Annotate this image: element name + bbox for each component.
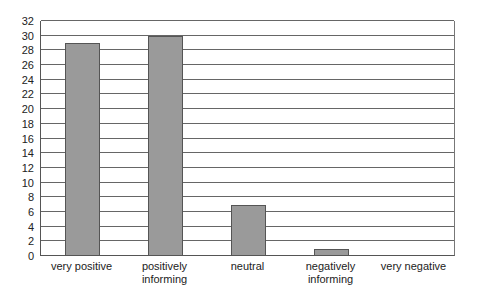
y-tick-label: 8 bbox=[4, 191, 34, 203]
plot-area bbox=[40, 21, 455, 256]
bar bbox=[314, 249, 349, 256]
gridline bbox=[41, 182, 454, 183]
y-tick-label: 30 bbox=[4, 30, 34, 42]
y-tick-label: 2 bbox=[4, 235, 34, 247]
gridline bbox=[41, 152, 454, 153]
y-tick-label: 32 bbox=[4, 15, 34, 27]
gridline bbox=[41, 20, 454, 21]
y-tick-label: 16 bbox=[4, 133, 34, 145]
gridline bbox=[41, 167, 454, 168]
gridline bbox=[41, 196, 454, 197]
y-tick-label: 0 bbox=[4, 250, 34, 262]
gridline bbox=[41, 108, 454, 109]
gridline bbox=[41, 49, 454, 50]
y-tick-label: 24 bbox=[4, 74, 34, 86]
bar bbox=[65, 43, 100, 256]
y-tick-label: 10 bbox=[4, 177, 34, 189]
y-tick-label: 4 bbox=[4, 221, 34, 233]
gridline bbox=[41, 93, 454, 94]
y-tick-label: 14 bbox=[4, 147, 34, 159]
gridline bbox=[41, 79, 454, 80]
gridline bbox=[41, 123, 454, 124]
y-tick-label: 20 bbox=[4, 103, 34, 115]
x-tick-label: very negative bbox=[364, 260, 464, 273]
x-tick-label-line: informing bbox=[281, 273, 381, 286]
gridline bbox=[41, 64, 454, 65]
y-tick-label: 12 bbox=[4, 162, 34, 174]
y-tick-label: 6 bbox=[4, 206, 34, 218]
gridline bbox=[41, 35, 454, 36]
bar bbox=[148, 36, 183, 256]
gridline bbox=[41, 138, 454, 139]
x-tick-label-line: very negative bbox=[364, 260, 464, 273]
bar-chart: 02468101214161820222426283032 very posit… bbox=[0, 0, 482, 297]
y-tick-label: 18 bbox=[4, 118, 34, 130]
y-tick-label: 22 bbox=[4, 88, 34, 100]
y-tick-label: 26 bbox=[4, 59, 34, 71]
y-tick-label: 28 bbox=[4, 44, 34, 56]
bar bbox=[231, 205, 266, 256]
x-tick-label-line: informing bbox=[115, 273, 215, 286]
